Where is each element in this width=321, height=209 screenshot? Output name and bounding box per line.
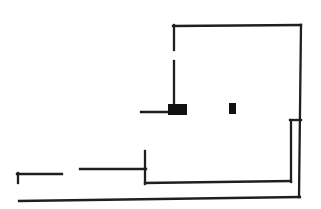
bottom-inner-wall	[145, 181, 291, 183]
large-post-mark	[168, 104, 187, 115]
top-wall	[173, 25, 301, 26]
wall-lines-group	[17, 25, 301, 201]
scanned-plan-page	[0, 0, 321, 209]
filled-marks-group	[168, 103, 236, 115]
bottom-outer-wall	[19, 197, 300, 201]
right-outer-wall	[299, 25, 301, 197]
plan-drawing-svg	[0, 0, 321, 209]
small-post-mark	[229, 103, 236, 114]
